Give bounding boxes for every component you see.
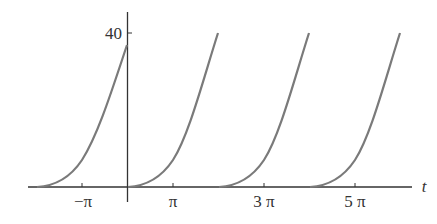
x-axis-label: t: [422, 177, 428, 196]
x-tick-label: −π: [74, 192, 93, 211]
data-series: [37, 33, 400, 187]
x-tick-label: π: [169, 192, 178, 211]
chart: 40 −π π 3 π 5 π t: [0, 0, 437, 224]
y-tick-label: 40: [105, 24, 122, 43]
x-tick-label: 5 π: [344, 192, 366, 211]
x-tick-label: 3 π: [253, 192, 275, 211]
